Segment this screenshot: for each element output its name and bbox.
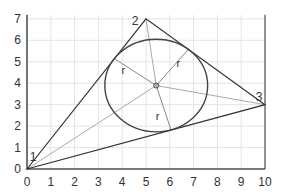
angle-bisector: [27, 86, 156, 169]
x-tick-label: 5: [143, 175, 150, 189]
radius-label: r: [176, 57, 180, 69]
vertex-label: 2: [132, 14, 139, 28]
diagram-canvas: 01234567891001234567 rrr 123: [0, 0, 286, 192]
y-tick-label: 3: [14, 98, 21, 112]
vertex-label: 1: [30, 150, 37, 164]
x-tick-label: 7: [190, 175, 197, 189]
x-tick-label: 0: [24, 175, 31, 189]
y-tick-label: 0: [14, 162, 21, 176]
radius-line: [156, 86, 171, 130]
vertex-label: 3: [256, 90, 263, 104]
y-tick-label: 4: [14, 76, 21, 90]
x-tick-label: 6: [166, 175, 173, 189]
angle-bisector: [156, 86, 265, 105]
radius-label: r: [156, 110, 160, 122]
radius-label: r: [122, 64, 126, 76]
incircle-diagram: 01234567891001234567 rrr 123: [0, 0, 286, 192]
x-tick-label: 3: [95, 175, 102, 189]
x-tick-label: 4: [119, 175, 126, 189]
x-tick-label: 8: [214, 175, 221, 189]
y-tick-label: 6: [14, 33, 21, 47]
radius-line: [156, 49, 188, 85]
x-tick-label: 1: [47, 175, 54, 189]
angle-bisector: [146, 19, 156, 86]
y-tick-label: 5: [14, 55, 21, 69]
x-tick-label: 10: [258, 175, 272, 189]
y-tick-label: 7: [14, 12, 21, 26]
x-tick-label: 2: [71, 175, 78, 189]
y-tick-label: 2: [14, 119, 21, 133]
y-tick-label: 1: [14, 141, 21, 155]
x-tick-label: 9: [238, 175, 245, 189]
